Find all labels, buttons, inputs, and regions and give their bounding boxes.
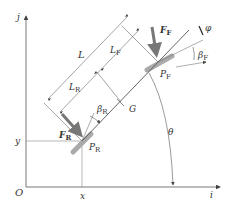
vehicle-model-diagram: j i O x y L LF LR G θ βR βF φ FR FF PR P… <box>0 0 236 209</box>
front-point-label: PF <box>159 69 171 81</box>
steering-angle-marker <box>199 26 203 35</box>
y-axis-label: j <box>15 12 20 22</box>
heading-angle-label: θ <box>168 127 174 137</box>
front-force-arrow <box>152 27 156 52</box>
wheelbase-label: L <box>77 49 85 60</box>
axes <box>26 16 220 187</box>
g-extension-line <box>97 72 121 102</box>
g-tick <box>117 99 124 106</box>
front-wheel-direction-line <box>158 40 203 62</box>
x-axis-label: i <box>210 190 213 200</box>
front-force-label: FF <box>159 25 171 37</box>
cog-label: G <box>129 104 136 114</box>
split-dimension-line <box>60 30 139 112</box>
x-coord-label: x <box>80 191 85 201</box>
rear-point-label: PR <box>88 142 101 154</box>
front-slip-arc <box>193 47 194 60</box>
wheelbase-dimension-line <box>48 16 128 99</box>
rear-force-label: FR <box>58 130 71 142</box>
rear-slip-label: βR <box>96 104 108 116</box>
front-slip-label: βF <box>197 50 208 62</box>
front-velocity-line <box>176 62 206 67</box>
rear-length-label: LR <box>68 82 81 94</box>
y-coord-label: y <box>14 136 21 146</box>
front-wheel <box>147 56 172 70</box>
steering-angle-label: φ <box>205 23 212 33</box>
origin-label: O <box>15 187 23 198</box>
